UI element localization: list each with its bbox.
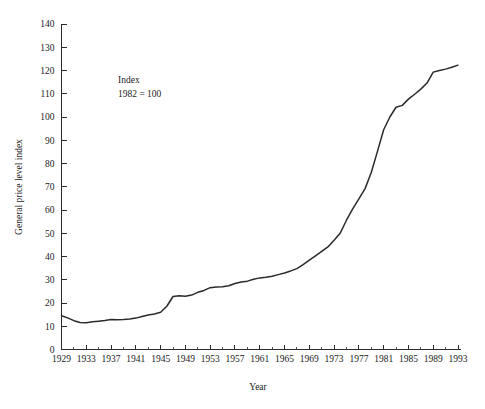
x-tick-label-1953: 1953 <box>201 354 220 364</box>
x-axis-ticks: 1929193319371941194519491953195719611965… <box>52 345 468 364</box>
y-tick-label-110: 110 <box>41 89 55 99</box>
annotation-line-1: Index <box>118 75 140 85</box>
x-tick-label-1989: 1989 <box>424 354 443 364</box>
axes-group <box>62 24 462 350</box>
chart-figure: 0102030405060708090100110120130140 19291… <box>0 0 485 409</box>
y-tick-label-140: 140 <box>40 19 55 29</box>
y-axis-title: General price level index <box>14 139 24 235</box>
x-tick-label-1941: 1941 <box>126 354 145 364</box>
x-tick-label-1933: 1933 <box>77 354 96 364</box>
y-axis-ticks: 0102030405060708090100110120130140 <box>40 19 66 355</box>
y-tick-label-100: 100 <box>40 112 55 122</box>
x-tick-label-1977: 1977 <box>349 354 368 364</box>
y-tick-label-60: 60 <box>45 205 55 215</box>
x-tick-label-1985: 1985 <box>399 354 418 364</box>
y-tick-label-50: 50 <box>45 229 55 239</box>
x-tick-label-1937: 1937 <box>102 354 121 364</box>
x-tick-label-1965: 1965 <box>275 354 294 364</box>
y-tick-label-90: 90 <box>45 136 55 146</box>
y-tick-label-130: 130 <box>40 43 55 53</box>
series-line-general-price-level-index <box>62 65 459 323</box>
x-tick-label-1957: 1957 <box>225 354 244 364</box>
x-tick-label-1929: 1929 <box>52 354 71 364</box>
x-tick-label-1945: 1945 <box>151 354 170 364</box>
x-tick-label-1961: 1961 <box>250 354 269 364</box>
y-tick-label-120: 120 <box>40 66 55 76</box>
price-level-line-chart: 0102030405060708090100110120130140 19291… <box>0 0 485 409</box>
x-tick-label-1993: 1993 <box>449 354 468 364</box>
y-tick-label-20: 20 <box>45 298 55 308</box>
x-tick-label-1973: 1973 <box>325 354 344 364</box>
y-tick-label-10: 10 <box>45 322 55 332</box>
y-tick-label-40: 40 <box>45 252 55 262</box>
x-tick-label-1949: 1949 <box>176 354 195 364</box>
annotation-line-2: 1982 = 100 <box>118 89 162 99</box>
y-tick-label-70: 70 <box>45 182 55 192</box>
x-axis-title: Year <box>249 382 267 392</box>
x-tick-label-1981: 1981 <box>374 354 393 364</box>
x-tick-label-1969: 1969 <box>300 354 319 364</box>
y-tick-label-30: 30 <box>45 275 55 285</box>
y-tick-label-80: 80 <box>45 159 55 169</box>
index-annotation: Index 1982 = 100 <box>118 75 162 99</box>
